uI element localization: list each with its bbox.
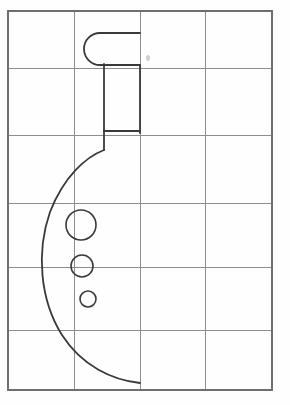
technical-sketch-figure — [0, 0, 290, 405]
sketch-sheet — [0, 0, 290, 405]
pencil-marks — [146, 55, 150, 61]
pencil-smudge — [146, 55, 150, 61]
